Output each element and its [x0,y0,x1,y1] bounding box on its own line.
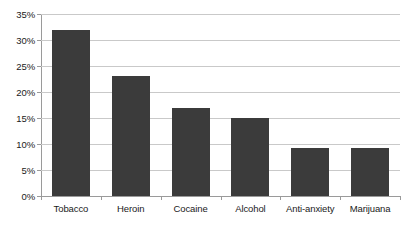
x-axis-category-label: Anti-anxiety [286,203,334,214]
y-axis-tick-label: 10% [16,139,35,150]
bar [112,76,150,196]
y-axis-tick-label: 35% [16,9,35,20]
y-axis-tick-label: 30% [16,35,35,46]
bar [291,148,329,196]
x-axis-category-label: Marijuana [350,203,391,214]
x-axis-category-label: Alcohol [235,203,265,214]
y-axis-tick-label: 15% [16,113,35,124]
plot-area: 0%5%10%15%20%25%30%35% TobaccoHeroinCoca… [41,14,400,196]
bar [172,108,210,196]
bar [351,148,389,196]
y-axis-tick-label: 0% [21,191,35,202]
y-axis-tick-label: 20% [16,87,35,98]
x-tick-mark [221,196,222,200]
bar [52,30,90,196]
x-tick-mark [400,196,401,200]
y-axis-tick-label: 25% [16,61,35,72]
x-tick-mark [161,196,162,200]
bar-chart: 0%5%10%15%20%25%30%35% TobaccoHeroinCoca… [0,0,408,229]
x-axis-category-label: Heroin [117,203,144,214]
x-axis-category-label: Tobacco [54,203,89,214]
x-tick-mark [101,196,102,200]
bar-slot [161,14,221,196]
y-axis-tick-label: 5% [21,165,35,176]
bar-slot [41,14,101,196]
x-tick-mark [280,196,281,200]
bar-slot [221,14,281,196]
x-tick-mark [340,196,341,200]
bars [41,14,400,196]
bar [231,118,269,196]
x-axis-category-label: Cocaine [174,203,208,214]
bar-slot [101,14,161,196]
bar-slot [340,14,400,196]
bar-slot [280,14,340,196]
x-tick-mark [41,196,42,200]
